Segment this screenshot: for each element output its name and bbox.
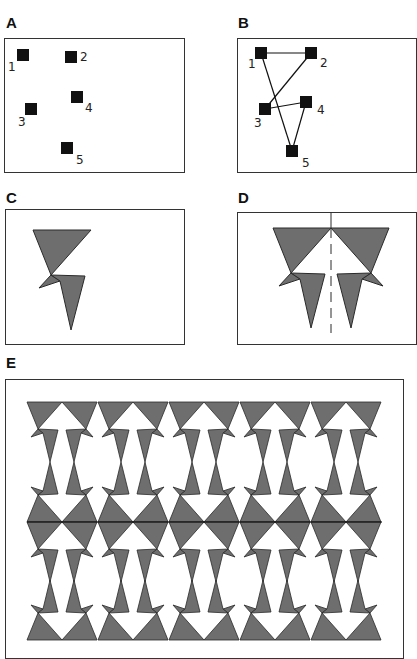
node-square [286, 145, 298, 157]
network-edge [261, 53, 292, 151]
node-label: 4 [85, 101, 93, 115]
node-label: 2 [320, 56, 328, 70]
motif-unit [98, 580, 168, 640]
node-square [25, 103, 37, 115]
motif-unit [311, 402, 381, 462]
node-label: 3 [18, 115, 26, 129]
motif-unit [27, 402, 97, 462]
motif-unit [98, 522, 168, 582]
node-square [17, 49, 29, 61]
node-square [305, 47, 317, 59]
node-label: 4 [317, 103, 325, 117]
motif-unit [240, 402, 310, 462]
node-square [71, 91, 83, 103]
node-square [65, 51, 77, 63]
motif-unit [240, 522, 310, 582]
panel-a-points: 12345 [8, 49, 93, 167]
motif-unit [169, 522, 239, 582]
motif-unit [169, 402, 239, 462]
motif-unit [169, 580, 239, 640]
motif-unit [240, 580, 310, 640]
motif-unit [27, 462, 97, 522]
network-edge [265, 102, 306, 109]
node-label: 2 [80, 50, 88, 64]
motif-unit [27, 580, 97, 640]
motif-unit [311, 580, 381, 640]
motif-unit [27, 522, 97, 582]
node-label: 5 [76, 153, 84, 167]
motif-unit [311, 462, 381, 522]
node-label: 1 [8, 60, 16, 74]
node-square [61, 142, 73, 154]
node-label: 5 [302, 156, 310, 170]
panel-e-pattern [27, 402, 382, 640]
node-label: 3 [254, 116, 262, 130]
motif-unit [98, 462, 168, 522]
network-edge [292, 102, 306, 151]
node-square [259, 103, 271, 115]
panel-c-motif [33, 230, 91, 330]
motif-unit [311, 522, 381, 582]
panel-b-network: 12345 [248, 47, 328, 170]
motif-unit [98, 402, 168, 462]
node-square [255, 47, 267, 59]
motif-unit [169, 462, 239, 522]
node-label: 1 [248, 57, 256, 71]
motif-unit [240, 462, 310, 522]
node-square [300, 96, 312, 108]
